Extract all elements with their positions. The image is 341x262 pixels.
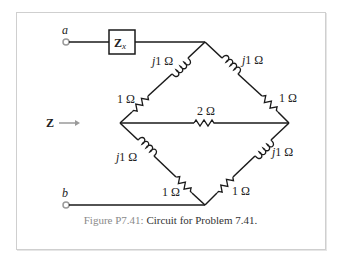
terminal-a [63, 39, 69, 45]
inductor-icon [172, 58, 192, 78]
arrow-right-icon [59, 120, 80, 126]
caption-text: Circuit for Problem 7.41. [146, 214, 257, 226]
caption-label: Figure P7.41: [84, 214, 144, 226]
resistor-icon [260, 94, 280, 114]
inductor-icon [222, 54, 242, 74]
lower-left-branch: j1 Ω 1 Ω [114, 123, 205, 205]
terminal-b [63, 202, 69, 208]
middle-branch: 2 Ω [120, 104, 289, 126]
lower-left-resistor-label: 1 Ω [162, 185, 180, 199]
lower-left-inductor-label: j1 Ω [114, 150, 137, 164]
resistor-icon [194, 120, 216, 126]
upper-right-branch: j1 Ω 1 Ω [205, 42, 297, 123]
upper-right-resistor-label: 1 Ω [279, 91, 297, 105]
upper-left-inductor-label: j1 Ω [150, 54, 173, 68]
middle-resistor-label: 2 Ω [197, 104, 215, 118]
inductor-icon [138, 136, 158, 156]
lower-right-resistor-label: 1 Ω [232, 184, 250, 198]
upper-right-inductor-label: j1 Ω [240, 53, 263, 67]
terminal-a-label: a [62, 23, 68, 37]
figure-caption: Figure P7.41: Circuit for Problem 7.41. [0, 214, 341, 226]
terminal-b-label: b [62, 186, 68, 200]
upper-left-resistor-label: 1 Ω [117, 92, 135, 106]
lower-right-branch: j1 Ω 1 Ω [205, 123, 293, 205]
z-input-label: Z [46, 116, 54, 130]
lower-right-inductor-label: j1 Ω [270, 145, 293, 159]
